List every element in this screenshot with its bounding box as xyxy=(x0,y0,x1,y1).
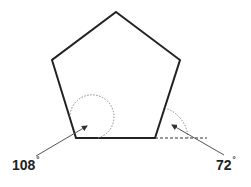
degree-symbol: ° xyxy=(36,155,39,164)
degree-symbol: ° xyxy=(233,155,236,164)
exterior-angle-value: 72 xyxy=(216,157,232,173)
interior-angle-arc xyxy=(70,95,114,138)
interior-angle-arrow xyxy=(36,126,87,156)
exterior-angle-arc xyxy=(165,108,188,138)
interior-angle-value: 108 xyxy=(12,157,35,173)
exterior-angle-arrow xyxy=(172,125,224,155)
interior-angle-label: 108° xyxy=(12,157,40,173)
pentagon xyxy=(52,12,180,138)
exterior-angle-label: 72° xyxy=(216,157,236,173)
pentagon-diagram: 108° 72° xyxy=(0,0,251,187)
